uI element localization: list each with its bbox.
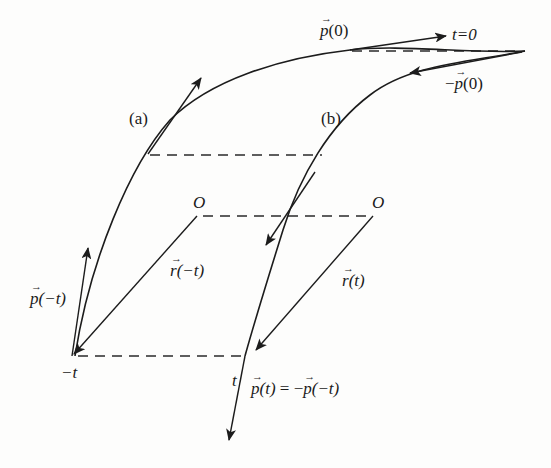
label-origin-right: O xyxy=(372,194,384,211)
position-vector-r-neg-t xyxy=(74,216,197,354)
label-time-zero-text: t=0 xyxy=(452,25,477,44)
label-r-neg-t: r(−t) xyxy=(170,262,204,279)
vector-symbol-r: r xyxy=(342,272,349,289)
label-t-point: t xyxy=(232,372,237,389)
vector-symbol-p: p xyxy=(320,22,329,39)
label-curve-b: (b) xyxy=(321,110,341,127)
label-neg-p0-prefix: − xyxy=(445,74,455,93)
vector-symbol-p: p xyxy=(251,380,260,397)
label-p0: p(0) xyxy=(320,22,348,39)
vector-symbol-p: p xyxy=(30,290,39,307)
label-p-t-eq: = − xyxy=(276,379,304,398)
label-p-t-equation: p(t) = −p(−t) xyxy=(251,380,339,397)
momentum-arrow-p-t xyxy=(229,356,245,440)
vector-symbol-p: p xyxy=(303,380,312,397)
label-curve-a: (a) xyxy=(129,110,148,127)
label-p-neg-t: p(−t) xyxy=(30,290,66,307)
label-neg-p0: −p(0) xyxy=(445,75,483,92)
vector-symbol-r: r xyxy=(170,262,177,279)
label-p-t-rhs-arg: (−t) xyxy=(312,379,340,398)
tangent-arrow-a xyxy=(148,78,201,154)
label-neg-t-point: −t xyxy=(61,364,77,381)
label-origin-left: O xyxy=(193,194,205,211)
label-p-neg-t-arg: (−t) xyxy=(39,289,67,308)
label-time-zero: t=0 xyxy=(452,26,477,43)
trajectory-curve-b xyxy=(245,51,525,356)
trajectory-curve-a xyxy=(75,48,525,356)
tangent-arrow-b xyxy=(266,172,315,245)
label-r-t: r(t) xyxy=(342,272,365,289)
vector-symbol-p: p xyxy=(455,75,464,92)
